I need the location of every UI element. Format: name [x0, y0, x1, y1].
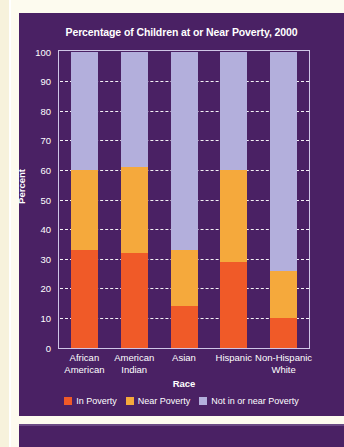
- bar-american-indian[interactable]: [121, 52, 148, 348]
- next-panel-top-highlight: [19, 424, 344, 426]
- bar-segment-not-in-or-near-poverty[interactable]: [121, 52, 148, 167]
- chart-title: Percentage of Children at or Near Povert…: [19, 26, 344, 38]
- bar-segment-near-poverty[interactable]: [270, 271, 297, 318]
- legend-item-near-poverty[interactable]: Near Poverty: [126, 396, 191, 406]
- bar-hispanic[interactable]: [220, 52, 247, 348]
- legend-label: Near Poverty: [138, 396, 191, 406]
- x-axis-tick-label: Non-HispanicWhite: [252, 352, 316, 376]
- page-left-margin-strip: [0, 0, 9, 447]
- bar-segment-near-poverty[interactable]: [71, 170, 98, 250]
- bar-non-hispanic-white[interactable]: [270, 52, 297, 348]
- bar-segment-not-in-or-near-poverty[interactable]: [171, 52, 198, 250]
- x-axis-tick-label-line: Indian: [102, 364, 166, 376]
- x-axis-tick-label-line: Non-Hispanic: [252, 352, 316, 364]
- bar-segment-in-poverty[interactable]: [171, 306, 198, 347]
- bar-segment-near-poverty[interactable]: [121, 167, 148, 253]
- legend-item-in-poverty[interactable]: In Poverty: [64, 396, 117, 406]
- plot-area: [60, 52, 309, 348]
- chart-legend: In PovertyNear PovertyNot in or near Pov…: [19, 396, 344, 406]
- y-axis-tick-label: 60: [40, 164, 51, 175]
- legend-swatch-icon: [64, 397, 72, 405]
- y-axis-tick-label: 50: [40, 194, 51, 205]
- bar-segment-near-poverty[interactable]: [220, 170, 247, 262]
- y-axis-tick-labels: 1009080706050403020100: [19, 52, 55, 348]
- y-axis-tick-label: 70: [40, 135, 51, 146]
- legend-item-not-in-or-near-poverty[interactable]: Not in or near Poverty: [199, 396, 299, 406]
- bar-african-american[interactable]: [71, 52, 98, 348]
- next-panel-preview: [19, 424, 344, 447]
- chart-panel: Percentage of Children at or Near Povert…: [19, 13, 344, 416]
- legend-swatch-icon: [126, 397, 134, 405]
- bar-segment-not-in-or-near-poverty[interactable]: [220, 52, 247, 170]
- bar-segment-in-poverty[interactable]: [270, 318, 297, 348]
- page-left-margin-edge: [9, 0, 11, 447]
- y-axis-tick-label: 30: [40, 253, 51, 264]
- y-axis-tick-label: 10: [40, 312, 51, 323]
- legend-label: Not in or near Poverty: [211, 396, 299, 406]
- x-axis-tick-label-line: White: [252, 364, 316, 376]
- x-axis-title: Race: [60, 378, 309, 389]
- bar-segment-in-poverty[interactable]: [121, 253, 148, 348]
- y-axis-tick-label: 0: [46, 342, 51, 353]
- y-axis-tick-label: 90: [40, 76, 51, 87]
- y-axis-tick-label: 40: [40, 224, 51, 235]
- legend-label: In Poverty: [76, 396, 117, 406]
- y-axis-tick-label: 20: [40, 283, 51, 294]
- y-axis-tick-label: 80: [40, 105, 51, 116]
- bar-segment-in-poverty[interactable]: [71, 250, 98, 348]
- legend-swatch-icon: [199, 397, 207, 405]
- bar-segment-near-poverty[interactable]: [171, 250, 198, 306]
- bar-asian[interactable]: [171, 52, 198, 348]
- y-axis-tick-label: 100: [35, 46, 51, 57]
- bar-segment-not-in-or-near-poverty[interactable]: [71, 52, 98, 170]
- bar-segment-in-poverty[interactable]: [220, 262, 247, 348]
- bar-segment-not-in-or-near-poverty[interactable]: [270, 52, 297, 271]
